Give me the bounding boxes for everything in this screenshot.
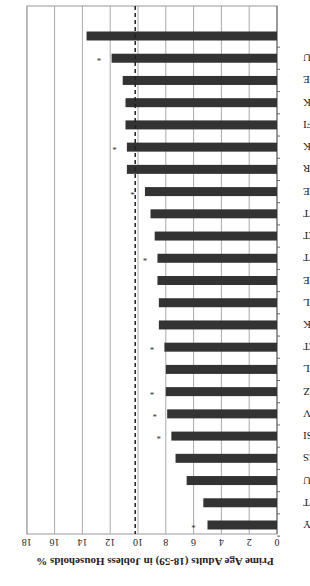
star-marker: *: [149, 342, 154, 352]
bar: [166, 365, 277, 374]
star-marker: *: [191, 520, 196, 530]
star-marker: *: [149, 387, 154, 397]
bar: [155, 232, 277, 241]
star-marker: *: [112, 142, 117, 152]
bar: [203, 498, 277, 507]
category-label: NL: [303, 363, 310, 375]
tick-label: 16: [50, 537, 60, 548]
tick-label: 4: [219, 537, 224, 548]
category-label: FI: [303, 119, 310, 131]
bar: [112, 54, 277, 63]
category-label: PT: [303, 497, 310, 509]
star-marker: *: [142, 253, 147, 263]
bar: [125, 98, 277, 107]
category-label: SK: [303, 141, 310, 153]
star-marker: *: [130, 187, 135, 197]
tick-label: 6: [191, 537, 196, 548]
category-label: LV: [303, 408, 310, 420]
bar: [159, 320, 277, 329]
tick-label: 0: [275, 537, 280, 548]
category-label: HU: [303, 52, 310, 64]
bar: [159, 298, 277, 307]
bar: [123, 76, 277, 85]
tick-label: 12: [105, 537, 115, 548]
bar: [166, 387, 277, 396]
star-marker: *: [96, 53, 101, 63]
bar: [171, 432, 277, 441]
category-label: DE: [303, 74, 310, 86]
category-label: DK: [303, 319, 310, 331]
bar: [127, 165, 277, 174]
category-label: MT: [303, 252, 310, 264]
category-label: ES: [303, 452, 310, 464]
tick-label: 18: [22, 537, 32, 548]
category-label: UK: [303, 97, 310, 109]
bar: [167, 409, 277, 418]
bar: [87, 32, 277, 41]
bar: [157, 254, 277, 263]
star-marker: *: [156, 431, 161, 441]
tick-label: 2: [247, 537, 252, 548]
tick-label: 10: [133, 537, 143, 548]
bar: [127, 143, 277, 152]
category-label: SI: [303, 430, 310, 442]
bar: [157, 276, 277, 285]
tick-label: 14: [77, 537, 87, 548]
category-label: FR: [302, 163, 310, 175]
category-label: EE: [303, 186, 310, 198]
bar: [125, 120, 277, 129]
category-label: CY: [303, 519, 310, 531]
tick-label: 8: [163, 537, 168, 548]
star-marker: *: [152, 409, 157, 419]
category-label: EL: [303, 297, 310, 309]
category-label: IE: [303, 275, 310, 287]
axis-title: Prime Age Adults (18-59) in Jobless Hous…: [36, 555, 273, 568]
category-label: LU: [303, 475, 310, 487]
bar: [208, 521, 278, 530]
bar: [187, 476, 277, 485]
bar: [151, 209, 277, 218]
category-label: IT: [303, 208, 310, 220]
bar: [145, 187, 277, 196]
bar-chart: 024681012141618*CYPTLUES*SI*LV*CZNL*LTDK…: [0, 0, 310, 586]
bar: [176, 454, 277, 463]
category-label: LT: [303, 341, 310, 353]
category-label: AT: [303, 230, 310, 242]
bar: [164, 343, 277, 352]
category-label: CZ: [303, 386, 310, 398]
